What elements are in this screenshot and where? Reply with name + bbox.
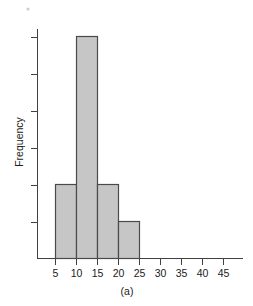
x-tick-label: 45 — [218, 267, 230, 279]
x-tick-label: 35 — [176, 267, 188, 279]
histogram-bar — [77, 37, 98, 259]
x-tick-label: 15 — [92, 267, 104, 279]
panel-label: (a) — [121, 285, 134, 297]
x-tick-label: 40 — [197, 267, 209, 279]
x-tick-label: 5 — [53, 267, 59, 279]
scan-speck — [26, 7, 29, 10]
x-tick-label: 30 — [155, 267, 167, 279]
x-tick-label: 20 — [113, 267, 125, 279]
histogram-bar — [98, 185, 119, 259]
y-axis-title: Frequency — [13, 116, 25, 166]
y-axis-ticks — [31, 38, 38, 223]
x-axis-tick-labels: 5 10 15 20 25 30 35 40 45 — [53, 267, 230, 279]
x-tick-label: 10 — [71, 267, 83, 279]
x-axis-ticks — [56, 259, 224, 266]
histogram-bar — [119, 222, 140, 259]
x-tick-label: 25 — [134, 267, 146, 279]
histogram-bars — [56, 37, 140, 259]
histogram-figure: 5 10 15 20 25 30 35 40 45 Frequency (a) — [0, 0, 253, 306]
histogram-bar — [56, 185, 77, 259]
histogram-plot: 5 10 15 20 25 30 35 40 45 Frequency (a) — [0, 0, 253, 306]
